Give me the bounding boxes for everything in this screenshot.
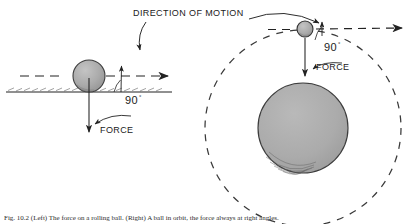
left-panel-group: 90 ° FORCE: [6, 60, 172, 135]
angle-label-left: 90: [125, 94, 138, 106]
force-label-left: FORCE: [100, 125, 134, 135]
figure-caption: Fig. 10.2 (Left) The force on a rolling …: [4, 214, 406, 223]
diagram-canvas: 90 ° FORCE DIRECTION OF MOTION: [0, 0, 410, 224]
orbiting-ball: [297, 21, 313, 37]
tangent-dashed-right: [316, 28, 402, 29]
right-angle-tick-left: [121, 66, 122, 92]
motion-callout-arrow-left: [139, 22, 146, 50]
degree-symbol-left: °: [139, 94, 142, 100]
planet-body: [258, 83, 348, 173]
force-callout-arrow-left: [95, 115, 131, 124]
direction-of-motion-label: DIRECTION OF MOTION: [133, 8, 244, 18]
physics-figure: 90 ° FORCE DIRECTION OF MOTION: [0, 0, 410, 224]
angle-label-right: 90: [324, 41, 337, 53]
degree-symbol-right: °: [338, 41, 341, 47]
right-panel-group: 90 ° FORCE: [205, 21, 402, 224]
force-label-right: FORCE: [316, 62, 350, 72]
direction-of-motion-group: DIRECTION OF MOTION: [133, 8, 319, 50]
